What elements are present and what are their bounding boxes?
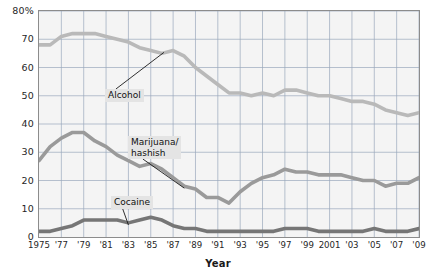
x-axis-tick: '77 xyxy=(55,241,68,250)
chart-figure: 01020304050607080% AlcoholMarijuana/ has… xyxy=(0,0,436,277)
annotation-cocaine: Cocaine xyxy=(111,196,153,209)
x-axis-tick: '99 xyxy=(301,241,314,250)
x-axis-tick: 1975 xyxy=(28,241,50,250)
annotation-marijuana-hashish: Marijuana/ hashish xyxy=(128,136,181,159)
x-axis-tick: '81 xyxy=(99,241,112,250)
x-axis-tick: '89 xyxy=(189,241,202,250)
plot-area xyxy=(38,10,420,238)
x-axis-title: Year xyxy=(0,258,436,269)
x-axis-tick: 2001 xyxy=(319,241,341,250)
y-axis-tick: 70 xyxy=(22,34,35,44)
y-axis-tick: 30 xyxy=(22,147,35,157)
x-axis-tick: '09 xyxy=(412,241,425,250)
x-axis-tick: '07 xyxy=(390,241,403,250)
x-axis-tick: '87 xyxy=(166,241,179,250)
x-axis-tick: '03 xyxy=(345,241,358,250)
y-axis-tick: 80% xyxy=(12,6,34,16)
series-line xyxy=(39,217,419,231)
annotation-alcohol: Alcohol xyxy=(105,89,144,102)
y-axis-tick: 60 xyxy=(22,63,35,73)
x-axis-tick: '91 xyxy=(211,241,224,250)
x-axis-tick: '85 xyxy=(144,241,157,250)
x-axis-tick: '97 xyxy=(278,241,291,250)
x-axis-tick-labels: 1975'77'79'81'83'85'87'89'91'93'95'97'99… xyxy=(0,241,436,257)
chart-svg xyxy=(39,11,419,237)
y-axis-tick-labels: 01020304050607080% xyxy=(0,0,34,277)
y-axis-tick: 20 xyxy=(22,176,35,186)
x-axis-tick: '05 xyxy=(368,241,381,250)
leader-line xyxy=(143,159,184,188)
leader-line xyxy=(116,52,164,89)
x-axis-tick: '83 xyxy=(122,241,135,250)
y-axis-tick: 50 xyxy=(22,91,35,101)
x-axis-tick: '95 xyxy=(256,241,269,250)
series-line xyxy=(39,132,419,203)
y-axis-tick: 40 xyxy=(22,119,35,129)
x-axis-tick: '79 xyxy=(77,241,90,250)
x-axis-tick: '93 xyxy=(234,241,247,250)
series-line xyxy=(39,34,419,116)
y-axis-tick: 10 xyxy=(22,204,35,214)
data-series xyxy=(39,34,419,232)
